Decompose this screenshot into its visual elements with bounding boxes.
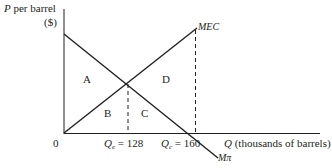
qe-label: Qe = 128 (104, 138, 143, 151)
mec-label: MEC (198, 22, 219, 32)
region-c-label: C (141, 108, 148, 119)
region-d-label: D (162, 74, 170, 85)
pollution-market-chart: P per barrel ($) MEC A B C D 0 Qe = 128 … (0, 0, 332, 168)
y-axis-var: P (4, 2, 11, 14)
qc-label: Qc = 160 (161, 138, 200, 151)
mpi-label: Mπ (218, 153, 231, 163)
y-axis-label-line2: ($) (44, 17, 57, 28)
region-a-label: A (83, 74, 91, 85)
x-axis-label: Q (thousands of barrels) (224, 138, 331, 149)
qc-value: = 160 (172, 137, 200, 149)
x-axis-var: Q (224, 137, 232, 149)
qe-var: Q (104, 137, 112, 149)
y-axis-label-line1: P per barrel (4, 3, 56, 14)
region-b-label: B (104, 108, 111, 119)
y-axis-text: per barrel (11, 2, 56, 14)
qe-value: = 128 (115, 137, 143, 149)
origin-label: 0 (53, 138, 59, 149)
x-axis-text: (thousands of barrels) (232, 137, 331, 149)
qc-var: Q (161, 137, 169, 149)
